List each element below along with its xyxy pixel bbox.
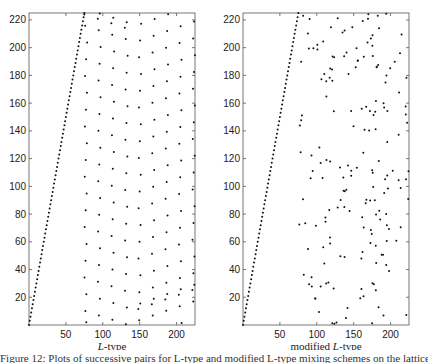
y-tick-label: 200 bbox=[9, 42, 26, 53]
y-tick-label: 200 bbox=[223, 42, 240, 53]
y-tick-label: 120 bbox=[223, 153, 240, 164]
y-tick-label: 80 bbox=[229, 209, 241, 220]
y-tick-label: 20 bbox=[15, 292, 27, 303]
x-axis-label: modified L-type bbox=[290, 340, 361, 350]
y-tick-label: 120 bbox=[9, 153, 26, 164]
right-plot: 5010015020020406080100120140160180200220… bbox=[214, 0, 428, 350]
left-plot-canvas: 5010015020020406080100120140160180200220… bbox=[0, 0, 214, 350]
y-tick-label: 40 bbox=[15, 264, 27, 275]
y-tick-label: 160 bbox=[223, 98, 240, 109]
y-tick-label: 180 bbox=[9, 70, 26, 81]
y-tick-label: 60 bbox=[15, 236, 27, 247]
y-tick-label: 20 bbox=[229, 292, 241, 303]
y-tick-label: 140 bbox=[9, 125, 26, 136]
y-tick-label: 220 bbox=[9, 14, 26, 25]
x-tick-label: 50 bbox=[60, 329, 72, 340]
y-tick-label: 80 bbox=[15, 209, 27, 220]
y-tick-label: 180 bbox=[223, 70, 240, 81]
x-tick-label: 50 bbox=[274, 329, 286, 340]
y-tick-label: 100 bbox=[223, 181, 240, 192]
y-tick-label: 140 bbox=[223, 125, 240, 136]
y-tick-label: 160 bbox=[9, 98, 26, 109]
right-plot-canvas: 5010015020020406080100120140160180200220… bbox=[214, 0, 428, 350]
x-tick-label: 100 bbox=[308, 329, 325, 340]
x-tick-label: 200 bbox=[382, 329, 399, 340]
y-tick-label: 220 bbox=[223, 14, 240, 25]
x-tick-label: 150 bbox=[345, 329, 362, 340]
figure-caption: Figure 12: Plots of successive pairs for… bbox=[0, 352, 428, 363]
x-tick-label: 150 bbox=[131, 329, 148, 340]
left-plot: 5010015020020406080100120140160180200220… bbox=[0, 0, 214, 350]
y-tick-label: 60 bbox=[229, 236, 241, 247]
x-tick-label: 100 bbox=[94, 329, 111, 340]
x-axis-label: L-type bbox=[97, 340, 127, 350]
axes-box bbox=[243, 13, 409, 325]
y-tick-label: 100 bbox=[9, 181, 26, 192]
x-tick-label: 200 bbox=[168, 329, 185, 340]
y-tick-label: 40 bbox=[229, 264, 241, 275]
